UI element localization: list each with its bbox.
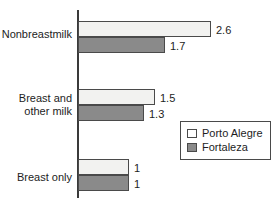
value-label-breast-only-fortaleza: 1: [134, 179, 140, 190]
legend-item-fortaleza: Fortaleza: [187, 140, 263, 154]
legend-item-porto-alegre: Porto Alegre: [187, 126, 263, 140]
chart-legend: Porto Alegre Fortaleza: [180, 121, 271, 160]
bar-chart: Nonbreastmilk 2.6 1.7 Breast and other m…: [0, 0, 272, 207]
value-label-nonbreastmilk-fortaleza: 1.7: [170, 41, 185, 52]
legend-label-fortaleza: Fortaleza: [202, 141, 248, 153]
category-label-breast-and-other-milk: Breast and other milk: [19, 92, 72, 118]
category-label-breast-only: Breast only: [17, 171, 72, 184]
value-label-breast-and-other-milk-porto-alegre: 1.5: [160, 93, 175, 104]
bar-breast-and-other-milk-porto-alegre: [78, 89, 155, 105]
bar-breast-only-porto-alegre: [78, 159, 129, 175]
value-label-nonbreastmilk-porto-alegre: 2.6: [216, 25, 231, 36]
value-label-breast-and-other-milk-fortaleza: 1.3: [149, 109, 164, 120]
bar-breast-and-other-milk-fortaleza: [78, 105, 144, 121]
bar-nonbreastmilk-porto-alegre: [78, 21, 211, 37]
category-label-nonbreastmilk: Nonbreastmilk: [2, 28, 72, 41]
value-label-breast-only-porto-alegre: 1: [134, 163, 140, 174]
legend-label-porto-alegre: Porto Alegre: [202, 127, 263, 139]
legend-swatch-icon-porto-alegre: [187, 129, 197, 138]
bar-breast-only-fortaleza: [78, 175, 129, 191]
bar-nonbreastmilk-fortaleza: [78, 37, 165, 53]
legend-swatch-icon-fortaleza: [187, 143, 197, 152]
